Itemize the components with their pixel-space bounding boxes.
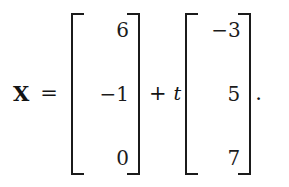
right-bracket-icon [127,13,140,175]
matrix-cell: 6 [97,20,129,40]
right-bracket-icon [238,13,251,175]
plus-operator: + [149,83,167,104]
left-hand-side: X = [13,83,58,104]
point-vector-matrix: 6 −1 0 [71,13,140,175]
matrix-cell: 0 [97,148,129,168]
equals-sign: = [40,83,58,104]
vector-equation: X = 6 −1 0 + t −3 5 7 . [0,0,289,187]
left-bracket-icon [71,13,84,175]
left-bracket-icon [185,13,198,175]
sentence-period: . [255,83,262,104]
direction-vector-matrix: −3 5 7 [185,13,251,175]
matrix-cell: −3 [211,20,240,40]
matrix-cell: −1 [97,84,129,104]
equation-figure: X = 6 −1 0 + t −3 5 7 . [0,0,289,187]
scalar-parameter-t: t [174,84,182,103]
variable-x: X [13,83,29,104]
matrix-cell: 7 [211,148,240,168]
matrix-cell: 5 [211,84,240,104]
